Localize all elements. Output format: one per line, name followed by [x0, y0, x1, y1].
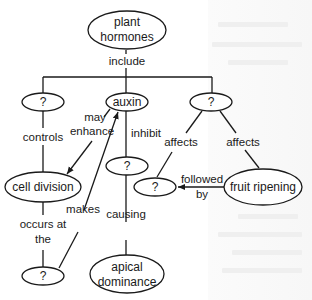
node-label: fruit ripening [230, 180, 296, 194]
node-label: ? [40, 269, 47, 283]
node-label: ? [40, 95, 47, 109]
edge-label-controls: controls [23, 131, 64, 143]
node-label: apical [111, 260, 142, 274]
node-auxin-child-unknown[interactable]: ? [106, 157, 148, 175]
edge-label-may-enhance: may [84, 111, 106, 123]
edge-makes-bottom [59, 232, 78, 268]
edge-label-makes: makes [66, 203, 100, 215]
node-label: auxin [113, 95, 142, 109]
edge-label-followed-by: by [196, 188, 208, 200]
edge-label-affects-right: affects [226, 136, 260, 148]
edge-label-affects-left: affects [164, 136, 198, 148]
node-label: dominance [98, 275, 157, 289]
concept-map: plant hormones ? auxin ? ? cell division… [0, 0, 312, 300]
node-bottom-unknown[interactable]: ? [22, 267, 64, 285]
edge-may-enhance-arrow [67, 141, 92, 174]
edge-label-may-enhance: enhance [70, 125, 114, 137]
edge-affects-right-bottom [245, 150, 259, 168]
edge-label-occurs-at-the: occurs at [20, 218, 67, 230]
node-right-unknown[interactable]: ? [190, 93, 232, 111]
node-affects-unknown[interactable]: ? [134, 178, 176, 196]
node-auxin[interactable]: auxin [106, 93, 148, 111]
node-plant-hormones[interactable]: plant hormones [88, 11, 166, 49]
node-label: cell division [12, 180, 73, 194]
edge-label-inhibit: inhibit [131, 127, 162, 139]
edge-affects-left-top [186, 111, 202, 133]
node-cell-division[interactable]: cell division [5, 172, 81, 202]
edge-label-causing: causing [106, 208, 146, 220]
node-label: ? [124, 159, 131, 173]
node-fruit-ripening[interactable]: fruit ripening [224, 169, 302, 205]
node-label: plant [114, 15, 141, 29]
edge-affects-right-top [220, 111, 236, 133]
edges [43, 50, 259, 268]
edge-label-include: include [109, 55, 145, 67]
edge-label-followed-by: followed [181, 173, 223, 185]
node-left-unknown[interactable]: ? [22, 93, 64, 111]
edge-label-occurs-at-the: the [35, 233, 51, 245]
node-apical-dominance[interactable]: apical dominance [90, 255, 164, 293]
node-label: ? [152, 180, 159, 194]
edge-labels: include controls may enhance inhibit aff… [20, 55, 260, 245]
node-label: ? [208, 95, 215, 109]
node-label: hormones [100, 30, 153, 44]
edge-affects-left-bottom [157, 152, 172, 177]
